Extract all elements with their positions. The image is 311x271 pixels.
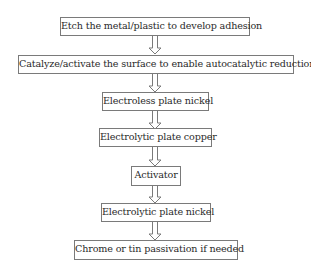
down-arrow-icon — [148, 222, 162, 241]
step-electroless-nickel: Electroless plate nickel — [102, 92, 209, 111]
down-arrow-icon — [148, 147, 162, 167]
step-passivation: Chrome or tin passivation if needed — [74, 240, 238, 260]
step-activator: Activator — [131, 166, 181, 186]
step-etch: Etch the metal/plastic to develop adhesi… — [60, 17, 250, 36]
down-arrow-icon — [148, 74, 162, 93]
down-arrow-icon — [148, 186, 162, 204]
step-catalyze: Catalyze/activate the surface to enable … — [18, 55, 294, 74]
down-arrow-icon — [148, 36, 162, 55]
step-electrolytic-nickel: Electrolytic plate nickel — [101, 203, 211, 222]
step-electrolytic-copper: Electrolytic plate copper — [99, 128, 212, 147]
